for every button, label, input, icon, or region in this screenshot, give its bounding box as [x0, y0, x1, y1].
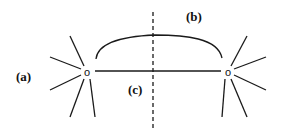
label-a: (a) — [16, 69, 31, 84]
label-b: (b) — [186, 9, 202, 24]
arc-edge — [96, 35, 222, 59]
diagram-canvas: o o (a) (b) (c) — [0, 0, 282, 133]
left-node: o — [84, 66, 90, 78]
right-node: o — [225, 66, 231, 78]
label-c: (c) — [128, 82, 142, 97]
